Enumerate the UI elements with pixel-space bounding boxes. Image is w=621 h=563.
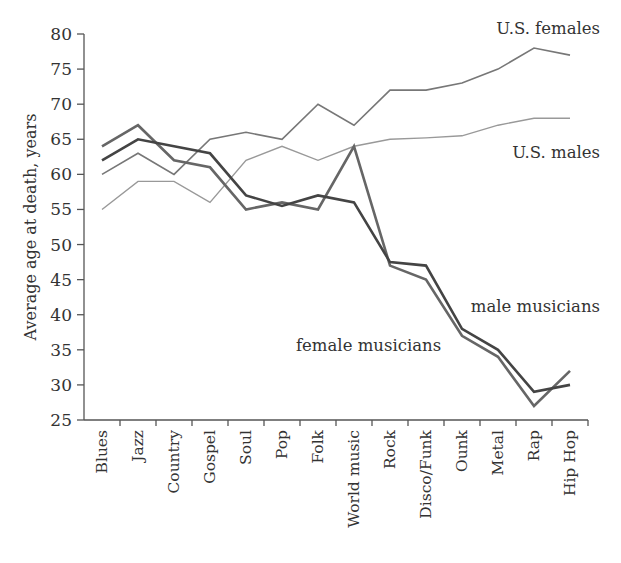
x-category-label: Blues <box>93 430 111 474</box>
series-line-female-musicians <box>102 125 570 406</box>
x-category-label: Hip Hop <box>561 430 579 496</box>
y-axis-label: Average age at death, years <box>21 114 40 342</box>
x-category-label: Pop <box>273 430 291 459</box>
y-tick-label: 70 <box>50 94 72 114</box>
series-label: female musicians <box>296 336 441 355</box>
y-tick-label: 50 <box>50 235 72 255</box>
y-tick-label: 65 <box>50 129 72 149</box>
series-line-u-s-males <box>102 118 570 209</box>
y-axis: 253035404550556065707580 <box>50 24 84 430</box>
y-tick-label: 40 <box>50 305 72 325</box>
y-tick-label: 75 <box>50 59 72 79</box>
series-label: male musicians <box>471 297 600 316</box>
x-category-label: Rap <box>525 430 543 461</box>
line-chart: 253035404550556065707580 BluesJazzCountr… <box>0 0 621 563</box>
x-category-label: Disco/Funk <box>417 429 435 518</box>
x-category-label: Country <box>165 430 183 494</box>
y-tick-label: 35 <box>50 340 72 360</box>
x-category-label: World music <box>345 430 363 528</box>
y-tick-label: 30 <box>50 375 72 395</box>
y-tick-label: 60 <box>50 164 72 184</box>
x-category-label: Rock <box>381 429 399 469</box>
x-category-label: Folk <box>309 429 327 463</box>
x-category-label: Ounk <box>453 429 471 472</box>
x-axis: BluesJazzCountryGospelSoulPopFolkWorld m… <box>84 420 588 528</box>
series-label: U.S. females <box>496 19 600 38</box>
y-tick-label: 80 <box>50 24 72 44</box>
y-tick-label: 45 <box>50 270 72 290</box>
y-tick-label: 25 <box>50 410 72 430</box>
x-category-label: Soul <box>237 430 255 465</box>
x-category-label: Metal <box>489 430 507 476</box>
x-category-label: Jazz <box>129 430 147 464</box>
x-category-label: Gospel <box>201 430 219 484</box>
y-tick-label: 55 <box>50 199 72 219</box>
series-label: U.S. males <box>512 143 600 162</box>
series-line-u-s-females <box>102 48 570 174</box>
